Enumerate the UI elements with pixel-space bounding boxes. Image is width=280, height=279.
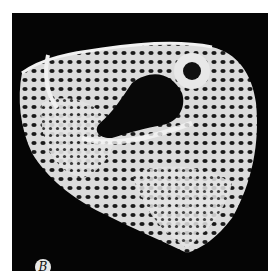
panel-label-badge: B bbox=[35, 259, 51, 271]
panel-label: B bbox=[39, 260, 48, 271]
bone-section-photo: B bbox=[12, 13, 268, 271]
bone-section-shape bbox=[12, 13, 268, 271]
